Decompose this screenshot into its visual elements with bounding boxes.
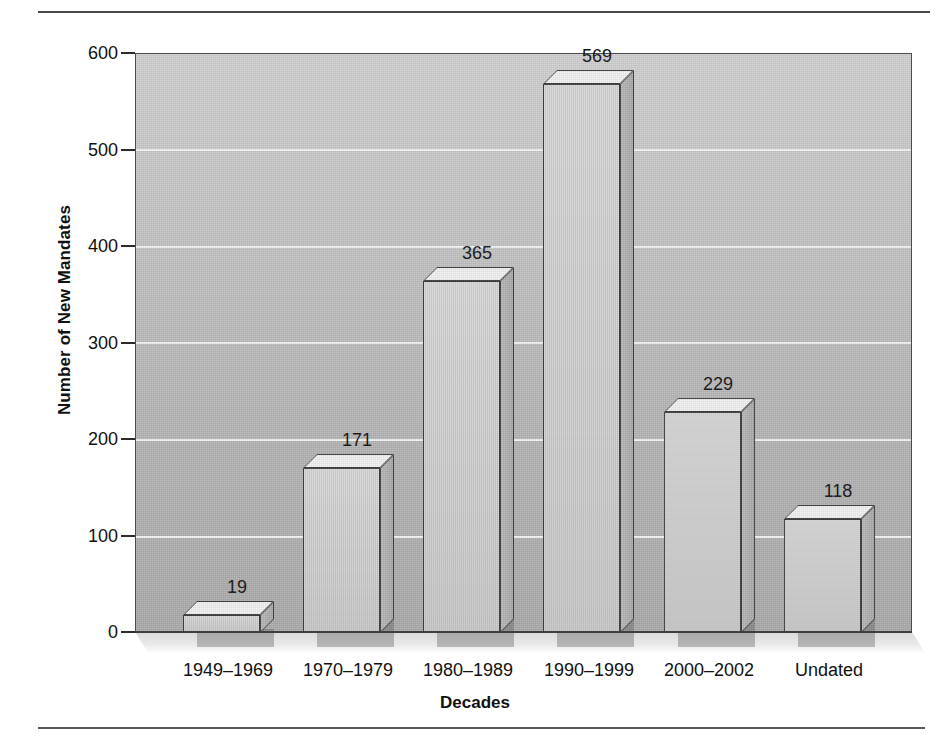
y-tick-mark-300 — [121, 342, 135, 344]
x-tick-label-1970-1979: 1970–1979 — [303, 660, 393, 681]
bar-2000-2002[interactable] — [664, 412, 741, 633]
y-tick-label-600: 600 — [62, 43, 118, 64]
gridline-300 — [136, 342, 911, 344]
bar-front-face — [543, 84, 620, 633]
y-tick-mark-200 — [121, 438, 135, 440]
bar-undated[interactable] — [784, 519, 861, 633]
bar-side-face — [500, 267, 514, 633]
y-tick-mark-0 — [121, 631, 135, 633]
gridline-500 — [136, 149, 911, 151]
bar-front-face — [784, 519, 861, 633]
bar-top-face — [784, 505, 875, 519]
bar-top-face — [664, 398, 755, 412]
x-tick-label-1949-1969: 1949–1969 — [183, 660, 273, 681]
y-tick-label-100: 100 — [62, 525, 118, 546]
y-axis-title: Number of New Mandates — [55, 160, 75, 460]
bar-top-face — [303, 454, 394, 468]
bar-side-face — [380, 454, 394, 633]
y-tick-label-200: 200 — [62, 429, 118, 450]
bar-1980-1989[interactable] — [423, 281, 500, 633]
top-rule — [38, 11, 930, 13]
y-tick-label-300: 300 — [62, 332, 118, 353]
y-tick-label-0: 0 — [62, 622, 118, 643]
bar-front-face — [423, 281, 500, 633]
bar-front-face — [303, 468, 380, 633]
axis-zero-line — [135, 631, 912, 633]
bar-value-1949-1969: 19 — [182, 577, 292, 598]
figure-bar-chart: Number of New Mandates 600 500 400 300 2… — [0, 0, 950, 743]
x-tick-label-1980-1989: 1980–1989 — [423, 660, 513, 681]
x-axis-title: Decades — [0, 693, 950, 713]
gridline-200 — [136, 439, 911, 441]
bar-top-face — [183, 601, 274, 615]
bar-top-face — [543, 70, 634, 84]
bar-top-face — [423, 267, 514, 281]
x-tick-label-undated: Undated — [795, 660, 863, 681]
bar-1970-1979[interactable] — [303, 468, 380, 633]
y-tick-label-500: 500 — [62, 139, 118, 160]
bar-value-undated: 118 — [783, 481, 893, 502]
y-tick-mark-600 — [121, 52, 135, 54]
x-tick-label-2000-2002: 2000–2002 — [664, 660, 754, 681]
bar-1990-1999[interactable] — [543, 84, 620, 633]
y-tick-label-400: 400 — [62, 236, 118, 257]
y-tick-mark-400 — [121, 245, 135, 247]
bar-front-face — [664, 412, 741, 633]
y-tick-mark-500 — [121, 149, 135, 151]
bar-value-2000-2002: 229 — [663, 374, 773, 395]
bottom-rule — [38, 727, 925, 729]
bar-value-1970-1979: 171 — [302, 430, 412, 451]
bar-side-face — [620, 70, 634, 633]
y-tick-mark-100 — [121, 535, 135, 537]
plot-area — [135, 53, 912, 632]
bar-value-1990-1999: 569 — [542, 46, 652, 67]
bar-side-face — [741, 398, 755, 633]
x-tick-label-1990-1999: 1990–1999 — [544, 660, 634, 681]
bar-side-face — [861, 505, 875, 633]
bar-value-1980-1989: 365 — [422, 243, 532, 264]
